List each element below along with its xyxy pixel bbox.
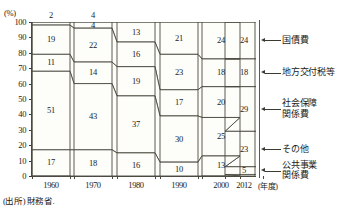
x-tick-mark	[225, 176, 226, 179]
segment-value-label: 18	[77, 158, 109, 168]
legend-rail	[259, 20, 260, 178]
x-tick-mark	[198, 176, 199, 179]
x-axis-line	[31, 176, 256, 177]
legend-label: 地方交付税等	[282, 67, 335, 78]
x-tick-mark	[70, 176, 71, 179]
x-tick-mark	[155, 176, 156, 179]
segment-value-label: 10	[163, 164, 195, 174]
y-tick-label: 20	[4, 140, 26, 150]
legend-label: 社会保障 関係費	[282, 98, 317, 119]
segment-value-label: 24	[228, 35, 260, 45]
x-tick-mark	[112, 176, 113, 179]
segment-value-label: 17	[163, 97, 195, 107]
x-tick-mark	[74, 176, 75, 179]
segment-value-label: 16	[120, 160, 152, 170]
x-tick-mark	[240, 176, 241, 179]
y-tick-label: 10	[4, 156, 26, 166]
segment-value-label: 11	[35, 57, 67, 67]
y-tick-label: 40	[4, 109, 26, 119]
segment-value-label: 29	[228, 104, 260, 114]
segment-value-label: 43	[77, 111, 109, 121]
top-value-label: 2	[35, 10, 67, 20]
legend-leader-line	[265, 109, 281, 110]
x-tick-label: 1990	[163, 180, 195, 190]
segment-value-label: 23	[163, 67, 195, 77]
x-tick-label: 1970	[77, 180, 109, 190]
y-tick-label: 50	[4, 94, 26, 104]
x-tick-mark	[32, 176, 33, 179]
x-tick-mark	[160, 176, 161, 179]
legend-leader-line	[265, 40, 281, 41]
y-tick-label: 100	[4, 17, 26, 27]
segment-value-label: 17	[35, 157, 67, 167]
y-tick-label: 80	[4, 48, 26, 58]
x-tick-mark	[263, 176, 264, 179]
legend-label: 公共事業 関係費	[282, 160, 317, 181]
x-tick-label: 1980	[120, 180, 152, 190]
legend-leader-line	[265, 73, 281, 74]
segment-value-label: 19	[120, 76, 152, 86]
x-axis-unit-label: (年度)	[258, 180, 277, 191]
legend-label: その他	[282, 144, 308, 155]
segment-value-label: 16	[120, 49, 152, 59]
segment-value-label: 51	[35, 105, 67, 115]
x-tick-mark	[117, 176, 118, 179]
segment-value-label: 37	[120, 119, 152, 129]
segment-value-label: 5	[228, 165, 260, 175]
y-tick-label: 90	[4, 32, 26, 42]
chart-figure: (%) 1009080706050403020100 1960197019801…	[0, 0, 362, 212]
segment-value-label: 19	[35, 34, 67, 44]
y-tick-label: 70	[4, 63, 26, 73]
source-note: (出所) 財務省.	[3, 194, 54, 206]
y-tick-label: 30	[4, 125, 26, 135]
segment-value-label: 22	[77, 40, 109, 50]
y-tick-label: 0	[4, 171, 26, 181]
segment-value-label: 13	[120, 27, 152, 37]
segment-value-label: 25	[205, 131, 237, 141]
segment-value-label: 4	[77, 20, 109, 30]
segment-value-label: 18	[228, 67, 260, 77]
segment-value-label: 23	[228, 144, 260, 154]
x-tick-label: 1960	[35, 180, 67, 190]
x-tick-mark	[202, 176, 203, 179]
segment-value-label: 14	[77, 67, 109, 77]
legend-label: 国債費	[282, 35, 308, 46]
segment-value-label: 30	[163, 134, 195, 144]
top-value-label: 4	[77, 10, 109, 20]
y-tick-label: 60	[4, 79, 26, 89]
legend-leader-line	[265, 171, 281, 172]
legend-leader-line	[265, 149, 281, 150]
segment-value-label: 21	[163, 33, 195, 43]
x-tick-label: 2012	[228, 180, 260, 190]
